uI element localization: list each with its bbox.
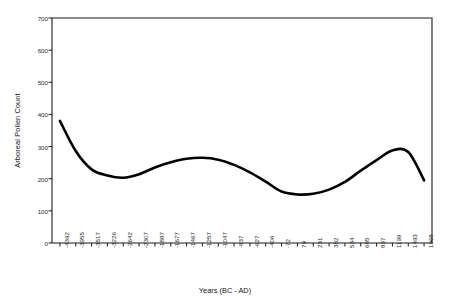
plot-area bbox=[0, 0, 450, 301]
data-series-line bbox=[60, 121, 424, 195]
plot-frame bbox=[52, 18, 432, 243]
chart-figure: Arboreal Pollen Count 010020030040050060… bbox=[0, 0, 450, 301]
x-axis-title: Years (BC - AD) bbox=[0, 286, 450, 295]
